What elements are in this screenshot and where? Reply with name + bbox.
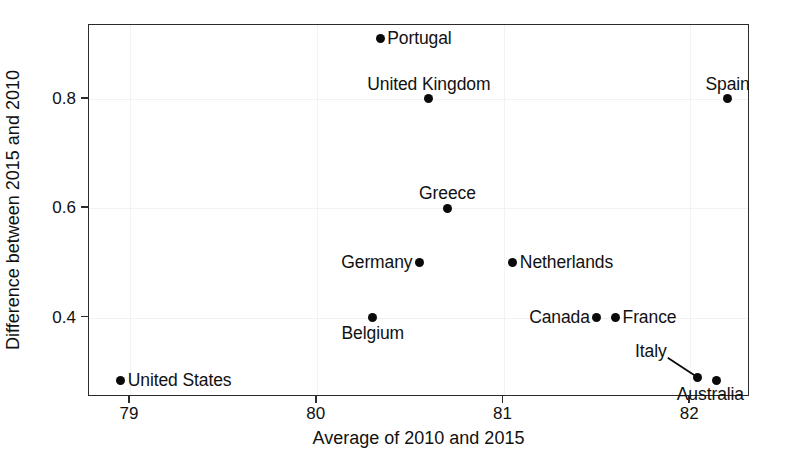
- y-tick-label: 0.4: [52, 308, 76, 325]
- y-tick-label: 0.6: [52, 199, 76, 216]
- x-axis-title: Average of 2010 and 2015: [88, 428, 749, 449]
- point-label: United Kingdom: [367, 75, 490, 93]
- point-label: Germany: [341, 254, 412, 272]
- point-label: Australia: [677, 386, 744, 404]
- point-label: France: [623, 309, 677, 327]
- data-point: [508, 258, 517, 267]
- gridline-horizontal: [89, 99, 748, 100]
- point-label: Belgium: [342, 325, 405, 343]
- gridline-vertical: [504, 25, 505, 395]
- y-tick-label: 0.8: [52, 89, 76, 106]
- data-point: [368, 313, 377, 322]
- data-point: [376, 34, 385, 43]
- point-label: Italy: [635, 343, 667, 361]
- plot-area: PortugalUnited KingdomSpainGreeceGermany…: [88, 24, 749, 396]
- point-label: Canada: [529, 309, 590, 327]
- x-tick-mark: [688, 396, 690, 403]
- y-tick-mark: [81, 316, 88, 318]
- x-tick-mark: [315, 396, 317, 403]
- point-label: United States: [128, 372, 232, 390]
- gridline-vertical: [130, 25, 131, 395]
- point-label: Netherlands: [520, 254, 613, 272]
- x-tick-mark: [502, 396, 504, 403]
- data-point: [592, 313, 601, 322]
- x-tick-label: 82: [680, 404, 699, 424]
- gridline-vertical: [317, 25, 318, 395]
- point-label: Spain: [705, 75, 749, 93]
- data-point: [116, 376, 125, 385]
- data-point: [611, 313, 620, 322]
- y-tick-mark: [81, 206, 88, 208]
- x-tick-label: 81: [493, 404, 512, 424]
- x-tick-mark: [128, 396, 130, 403]
- x-tick-label: 79: [120, 404, 139, 424]
- point-label: Greece: [419, 185, 476, 203]
- data-point: [693, 373, 702, 382]
- data-point: [723, 94, 732, 103]
- data-point: [443, 204, 452, 213]
- data-point: [415, 258, 424, 267]
- gridline-horizontal: [89, 208, 748, 209]
- data-point: [424, 94, 433, 103]
- gridline-vertical: [690, 25, 691, 395]
- scatter-plot-figure: PortugalUnited KingdomSpainGreeceGermany…: [0, 0, 790, 463]
- point-label: Portugal: [387, 30, 451, 48]
- y-axis-title: Difference between 2015 and 2010: [0, 24, 26, 396]
- x-tick-label: 80: [306, 404, 325, 424]
- y-tick-mark: [81, 97, 88, 99]
